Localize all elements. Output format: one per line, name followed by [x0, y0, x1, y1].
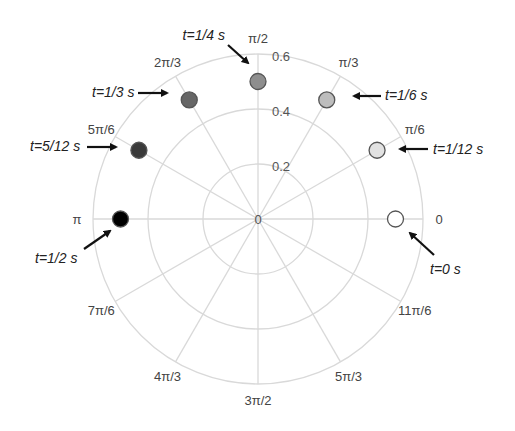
data-point-t-1-4: [250, 74, 266, 90]
radial-tick-label: 0.2: [272, 159, 290, 174]
angle-tick-label: 0: [435, 212, 442, 227]
time-annotation-label: t=1/2 s: [35, 250, 77, 266]
grid-spoke: [176, 219, 259, 362]
time-annotation-label: t=0 s: [430, 261, 461, 277]
angle-tick-label: 5π/3: [335, 369, 362, 384]
data-point-t-0: [388, 211, 404, 227]
time-annotation-label: t=5/12 s: [30, 138, 80, 154]
radial-tick-label: 0.6: [272, 49, 290, 64]
data-point-t-1-6: [319, 92, 335, 108]
data-point-t-1-3: [181, 92, 197, 108]
angle-tick-label: π/3: [339, 55, 359, 70]
polar-chart: 0π/6π/3π/22π/35π/6π7π/64π/33π/25π/311π/6…: [0, 0, 515, 431]
grid-spoke: [115, 219, 258, 302]
grid-spoke: [258, 219, 401, 302]
angle-tick-label: 4π/3: [154, 369, 181, 384]
time-annotations: t=0 st=1/12 st=1/6 st=1/4 st=1/3 st=5/12…: [30, 27, 483, 277]
angle-tick-label: π/2: [248, 31, 268, 46]
angle-tick-label: 11π/6: [398, 303, 431, 318]
time-annotation-label: t=1/3 s: [92, 84, 134, 100]
grid-spoke: [258, 219, 341, 362]
angle-tick-label: 3π/2: [244, 393, 271, 408]
angle-tick-label: 7π/6: [88, 303, 115, 318]
data-point-t-5-12: [131, 142, 147, 158]
data-point-t-1-2: [113, 211, 129, 227]
angle-tick-label: π: [73, 212, 82, 227]
data-point-t-1-12: [369, 142, 385, 158]
radial-tick-label: 0: [254, 212, 261, 227]
time-annotation-label: t=1/4 s: [183, 27, 225, 43]
angle-tick-label: π/6: [405, 122, 425, 137]
angle-tick-label: 2π/3: [154, 55, 181, 70]
time-annotation-label: t=1/6 s: [385, 87, 427, 103]
angle-tick-label: 5π/6: [88, 122, 115, 137]
time-annotation-label: t=1/12 s: [433, 141, 483, 157]
arrow-icon: [84, 231, 110, 249]
radial-tick-label: 0.4: [272, 104, 290, 119]
